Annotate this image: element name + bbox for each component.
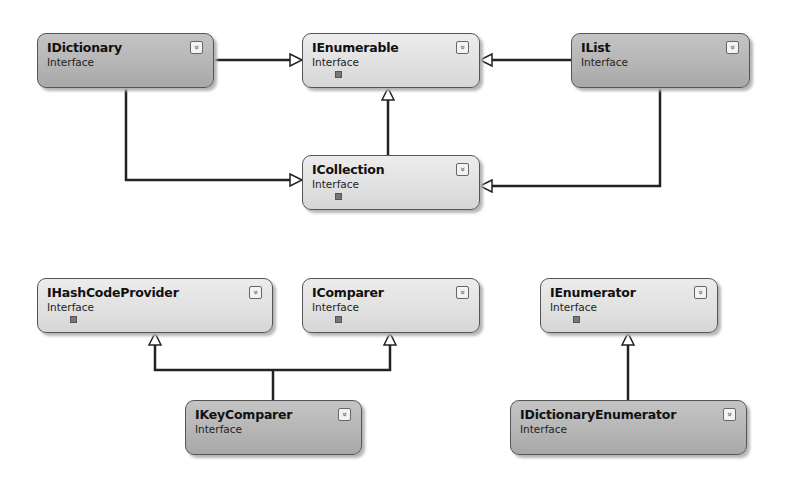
- expand-chevron-icon[interactable]: »: [456, 286, 469, 299]
- node-kind: Interface: [312, 56, 359, 68]
- expand-chevron-icon[interactable]: »: [726, 41, 739, 54]
- expand-chevron-icon[interactable]: »: [456, 41, 469, 54]
- node-ihashcodeprovider[interactable]: IHashCodeProvider Interface »: [37, 278, 273, 333]
- expand-chevron-icon[interactable]: »: [456, 163, 469, 176]
- node-title: IComparer: [312, 285, 384, 300]
- node-title: IKeyComparer: [195, 407, 292, 422]
- node-kind: Interface: [195, 423, 242, 435]
- expand-chevron-icon[interactable]: »: [190, 41, 203, 54]
- node-ienumerator[interactable]: IEnumerator Interface »: [540, 278, 718, 333]
- node-title: IEnumerator: [550, 285, 636, 300]
- node-icollection[interactable]: ICollection Interface »: [302, 155, 480, 210]
- node-title: IHashCodeProvider: [47, 285, 179, 300]
- expand-chevron-icon[interactable]: »: [249, 286, 262, 299]
- node-title: ICollection: [312, 162, 384, 177]
- node-ikeycomparer[interactable]: IKeyComparer Interface »: [185, 400, 362, 455]
- node-idictionaryenumerator[interactable]: IDictionaryEnumerator Interface »: [510, 400, 747, 455]
- node-idictionary[interactable]: IDictionary Interface »: [37, 33, 214, 88]
- expand-chevron-icon[interactable]: »: [723, 408, 736, 421]
- node-kind: Interface: [47, 56, 94, 68]
- expand-chevron-icon[interactable]: »: [694, 286, 707, 299]
- node-kind: Interface: [520, 423, 567, 435]
- node-icomparer[interactable]: IComparer Interface »: [302, 278, 480, 333]
- lock-icon: [335, 193, 342, 200]
- node-kind: Interface: [47, 301, 94, 313]
- node-title: IDictionary: [47, 40, 122, 55]
- node-ilist[interactable]: IList Interface »: [571, 33, 750, 88]
- node-kind: Interface: [550, 301, 597, 313]
- lock-icon: [70, 316, 77, 323]
- node-kind: Interface: [312, 178, 359, 190]
- node-title: IList: [581, 40, 610, 55]
- lock-icon: [335, 316, 342, 323]
- node-title: IEnumerable: [312, 40, 399, 55]
- node-kind: Interface: [581, 56, 628, 68]
- node-title: IDictionaryEnumerator: [520, 407, 676, 422]
- expand-chevron-icon[interactable]: »: [338, 408, 351, 421]
- node-ienumerable[interactable]: IEnumerable Interface »: [302, 33, 480, 88]
- lock-icon: [573, 316, 580, 323]
- node-kind: Interface: [312, 301, 359, 313]
- lock-icon: [335, 71, 342, 78]
